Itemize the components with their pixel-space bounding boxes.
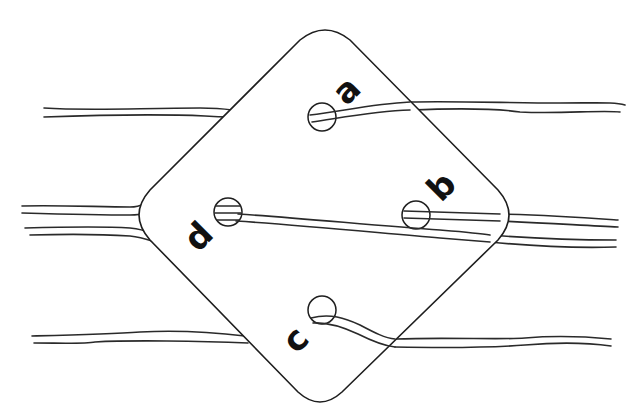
thread-bottom-right-lower bbox=[395, 343, 611, 347]
thread-middle-left-4 bbox=[30, 234, 152, 241]
hole-b bbox=[402, 201, 430, 229]
thread-top-left-lower bbox=[44, 115, 232, 117]
thread-dmid-right-1 bbox=[490, 235, 616, 240]
thread-bmid-right-1 bbox=[500, 214, 618, 220]
thread-middle-left-3 bbox=[25, 227, 150, 233]
thread-top-right-upper bbox=[410, 102, 625, 105]
thread-dmid-right-2 bbox=[490, 242, 616, 247]
thread-bottom-left-upper bbox=[32, 331, 245, 336]
thread-top-right-lower bbox=[410, 109, 620, 113]
tablet-weaving-diagram: a b c d bbox=[0, 0, 639, 420]
hole-a bbox=[308, 103, 336, 131]
hole-c bbox=[308, 296, 336, 324]
thread-bottom-left-lower bbox=[34, 341, 248, 343]
thread-middle-left-2 bbox=[22, 213, 144, 215]
thread-top-left-upper bbox=[44, 108, 232, 110]
thread-bmid-right-2 bbox=[500, 221, 618, 227]
thread-middle-left-1 bbox=[22, 204, 144, 207]
thread-bottom-right-upper bbox=[395, 336, 611, 339]
